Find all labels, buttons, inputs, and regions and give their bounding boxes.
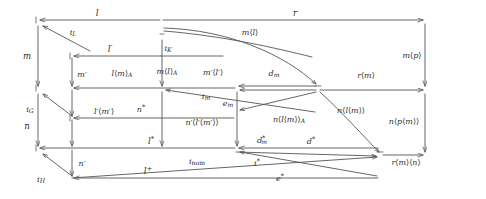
label-n-angle-l-angle-m-A: n⟨l⟨m⟩⟩A xyxy=(273,116,305,124)
label-r-angle-m-angle-n: r⟨m⟩⟨n⟩ xyxy=(391,159,420,167)
label-m-angle-l-A: m⟨l⟩A xyxy=(157,68,178,76)
edge-i-H xyxy=(43,154,72,176)
label-n: n xyxy=(24,122,30,131)
label-i-H: iH xyxy=(37,176,45,184)
edge-i-L xyxy=(43,26,90,51)
label-m: m xyxy=(23,52,31,61)
label-l-prime-angle-m-prime: l′⟨m′⟩ xyxy=(94,108,114,116)
label-l-prime: l′ xyxy=(108,45,113,54)
label-m-prime-angle-l-prime: m′⟨l′⟩ xyxy=(203,69,223,77)
label-n-star: n* xyxy=(137,104,145,114)
label-e-m: em xyxy=(223,100,234,108)
label-r-angle-m: r⟨m⟩ xyxy=(357,72,375,80)
label-d-m: dm xyxy=(269,70,280,78)
label-m-angle-p: m⟨p⟩ xyxy=(403,52,422,60)
label-m-angle-l: m⟨l⟩ xyxy=(242,29,258,37)
edge-m-angle-l-curve2 xyxy=(164,31,312,57)
label-i-L: iL xyxy=(70,29,77,37)
label-d-star: d* xyxy=(307,136,315,146)
edge-e-star xyxy=(72,157,377,178)
edge-e-m xyxy=(240,92,316,110)
label-i-G: iG xyxy=(26,106,33,114)
label-d-m-star: d*m xyxy=(257,135,267,145)
label-n-angle-l-angle-m: n⟨l⟨m⟩⟩ xyxy=(337,107,365,115)
edge-n-angle-l-angle-m xyxy=(320,92,379,152)
label-l-angle-m-A: l⟨m⟩A xyxy=(112,70,133,78)
label-i-star: i* xyxy=(254,158,260,168)
label-i-m: im xyxy=(202,93,210,101)
label-l-star: l* xyxy=(148,136,154,145)
label-n-prime-angle-l-prime: n′⟨l′⟨m′⟩⟩ xyxy=(185,119,218,127)
label-i-nom: inom xyxy=(189,158,205,166)
label-n-prime: n′ xyxy=(79,160,86,168)
label-i-K: iK xyxy=(164,45,171,53)
node-ticks xyxy=(36,17,383,152)
label-r: r xyxy=(293,9,297,18)
label-l-plus: l+ xyxy=(144,166,153,175)
label-m-prime: m′ xyxy=(77,71,86,79)
label-l: l xyxy=(96,9,99,18)
edge-i-G xyxy=(43,94,72,116)
edge-i-m-diag xyxy=(166,90,315,112)
diagram-canvas: l r iL iK m⟨l⟩ m l′ m⟨p⟩ m′ l⟨m⟩A m⟨l⟩A … xyxy=(0,0,486,199)
label-e-star: e* xyxy=(276,173,284,183)
label-n-angle-p-angle-m: n⟨p⟨m⟩⟩ xyxy=(389,118,419,126)
